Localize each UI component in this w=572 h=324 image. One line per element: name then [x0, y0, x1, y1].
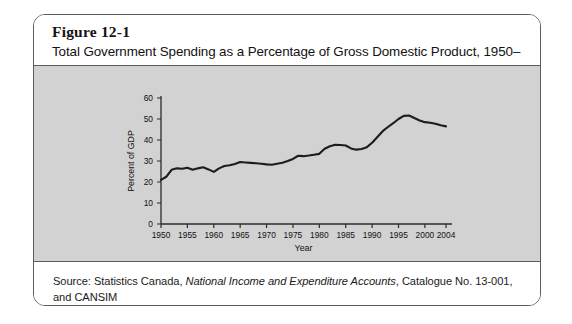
series-line	[161, 115, 446, 179]
chart-plot-band: 0102030405060195019551960196519701975198…	[34, 65, 540, 262]
x-axis-tick-label: 1985	[336, 230, 355, 240]
y-axis-label: Percent of GDP	[126, 130, 136, 192]
y-axis-tick-label: 30	[144, 156, 154, 166]
source-publication-title: National Income and Expenditure Accounts	[185, 275, 395, 287]
y-axis-tick-label: 10	[144, 198, 154, 208]
y-axis-tick-label: 50	[144, 114, 154, 124]
x-axis-tick-label: 1960	[204, 230, 223, 240]
x-axis-tick-label: 2000	[416, 230, 435, 240]
x-axis-label: Year	[295, 243, 313, 253]
x-axis-tick-label: 1970	[257, 230, 276, 240]
x-axis-tick-label: 1975	[284, 230, 303, 240]
x-axis-tick-label: 1990	[363, 230, 382, 240]
figure-frame: Figure 12-1 Total Government Spending as…	[33, 14, 541, 306]
source-prefix: Source: Statistics Canada,	[53, 275, 185, 287]
x-axis-tick-label: 2004	[437, 230, 456, 240]
y-axis-tick-label: 40	[144, 135, 154, 145]
figure-header: Figure 12-1 Total Government Spending as…	[34, 15, 540, 65]
figure-number: Figure 12-1	[52, 22, 540, 41]
x-axis-tick-label: 1955	[178, 230, 197, 240]
x-axis-tick-label: 1965	[231, 230, 250, 240]
y-axis-tick-label: 60	[144, 93, 154, 103]
y-axis-tick-label: 20	[144, 177, 154, 187]
x-axis-tick-label: 1995	[389, 230, 408, 240]
x-axis-tick-label: 1950	[152, 230, 171, 240]
y-axis-tick-label: 0	[148, 219, 153, 229]
x-axis-tick-label: 1980	[310, 230, 329, 240]
line-chart: 0102030405060195019551960196519701975198…	[34, 66, 541, 260]
source-note: Source: Statistics Canada, National Inco…	[34, 262, 540, 306]
